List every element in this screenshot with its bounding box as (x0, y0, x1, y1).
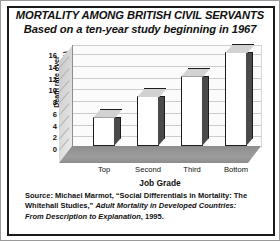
plot-3d-box (59, 45, 261, 163)
x-tick-label: Third (183, 165, 200, 174)
chart-title: MORTALITY AMONG BRITISH CIVIL SERVANTS (1, 9, 279, 21)
bar (181, 68, 203, 146)
bar-side-face (246, 52, 253, 146)
bar-side-face (202, 76, 209, 146)
y-tick-label: 6 (53, 109, 57, 118)
chart-subtitle: Based on a ten-year study beginning in 1… (1, 23, 279, 35)
x-tick-label: Top (98, 165, 110, 174)
bar-front-face (93, 117, 115, 146)
x-axis-tick-labels: TopSecondThirdBottom (59, 165, 261, 177)
y-tick-label: 8 (53, 98, 57, 107)
y-tick-label: 2 (53, 133, 57, 142)
x-axis-title: Job Grade (59, 178, 261, 188)
figure-frame: MORTALITY AMONG BRITISH CIVIL SERVANTS B… (0, 0, 280, 241)
wall-gridline (58, 139, 70, 152)
plot-floor (59, 146, 261, 164)
y-tick-label: 4 (53, 121, 57, 130)
bar-front-face (181, 76, 203, 146)
source-suffix: , 1995. (141, 212, 164, 221)
x-tick-label: Bottom (224, 165, 248, 174)
y-tick-label: 16 (49, 51, 57, 60)
plot-left-wall-gridlines (59, 45, 73, 163)
y-tick-label: 12 (49, 74, 57, 83)
bar-front-face (137, 96, 159, 146)
bar-side-face (158, 96, 165, 146)
bar-top-edge (188, 68, 210, 69)
chart-title-block: MORTALITY AMONG BRITISH CIVIL SERVANTS B… (1, 9, 279, 35)
bar (225, 44, 247, 146)
y-tick-label: 14 (49, 62, 57, 71)
x-tick-label: Second (135, 165, 161, 174)
bar-front-face (225, 52, 247, 146)
bar-top-edge (232, 44, 254, 45)
chart-plot-region: Death rate over 10-year period (%) 16141… (9, 45, 261, 173)
bar (93, 109, 115, 146)
y-axis-line (72, 45, 73, 147)
y-tick-label: 10 (49, 86, 57, 95)
y-tick-label: 0 (53, 145, 57, 154)
y-axis-tick-labels: 1614121086420 (39, 47, 57, 151)
source-note: Source: Michael Marmot, “Social Differen… (25, 191, 257, 222)
bar-top-edge (100, 109, 122, 110)
bar (137, 88, 159, 146)
bar-top-edge (144, 88, 166, 89)
